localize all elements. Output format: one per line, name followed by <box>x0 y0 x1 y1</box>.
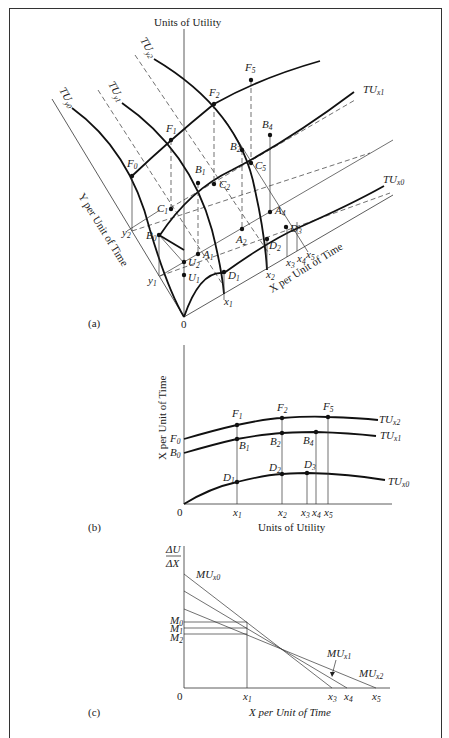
svg-text:B4: B4 <box>262 118 273 132</box>
mu-x0-line <box>184 574 332 688</box>
panel-a: Units of Utility X per Unit of Time Y pe… <box>52 16 404 330</box>
svg-text:F1: F1 <box>231 407 242 421</box>
svg-text:D1: D1 <box>227 269 240 283</box>
svg-text:x1: x1 <box>232 506 242 520</box>
tu-x0-curve <box>184 186 384 317</box>
tu-x0-curve-b <box>184 473 385 504</box>
svg-text:x1: x1 <box>223 295 233 309</box>
svg-text:x5: x5 <box>371 690 381 704</box>
panel-b: X per Unit of Time Units of Utility 0 (b… <box>88 345 409 534</box>
panel-c-x-ticks: x1 x3 x4 x5 <box>242 690 381 704</box>
svg-text:x2: x2 <box>277 506 287 520</box>
svg-text:B4: B4 <box>303 434 314 448</box>
svg-text:x3: x3 <box>285 256 295 270</box>
svg-text:U1: U1 <box>188 271 200 285</box>
svg-text:x1: x1 <box>242 690 252 704</box>
panel-c: ΔU ΔX X per Unit of Time 0 (c) M0 M1 M2 … <box>88 543 390 719</box>
panel-c-curve-labels: MUx0 MUx1 MUx2 <box>195 568 383 681</box>
svg-text:F2: F2 <box>276 401 288 415</box>
svg-text:TUy0: TUy0 <box>56 85 79 111</box>
svg-text:x4: x4 <box>343 690 353 704</box>
svg-text:F0: F0 <box>169 432 181 446</box>
svg-text:MUx2: MUx2 <box>358 667 383 681</box>
panel-b-origin: 0 <box>177 506 183 518</box>
svg-text:x2: x2 <box>265 268 275 282</box>
svg-text:B0: B0 <box>170 446 181 460</box>
panel-b-label: (b) <box>88 521 101 534</box>
arrowhead-icon <box>330 672 335 677</box>
panel-c-ylabel-num: ΔU <box>165 543 181 555</box>
b0-link <box>159 235 184 250</box>
panel-b-xlabel: Units of Utility <box>258 521 326 533</box>
panel-b-x-ticks: x1 x2 x3 x4 x5 <box>232 506 333 520</box>
svg-text:y2: y2 <box>121 226 131 240</box>
svg-text:F5: F5 <box>322 400 334 414</box>
panel-c-ylabel-den: ΔX <box>165 557 180 569</box>
svg-text:U2: U2 <box>188 256 200 270</box>
svg-text:A4: A4 <box>274 204 286 218</box>
panel-a-origin: 0 <box>181 318 187 330</box>
svg-text:TUx2: TUx2 <box>379 413 400 427</box>
svg-text:D3: D3 <box>289 222 302 236</box>
tu-x2-curve <box>132 61 320 176</box>
svg-text:D1: D1 <box>222 471 235 485</box>
panel-c-y-ticks: M0 M1 M2 <box>169 614 183 645</box>
svg-text:TUx1: TUx1 <box>380 429 401 443</box>
svg-text:x4: x4 <box>296 252 306 266</box>
svg-text:D3: D3 <box>303 458 316 472</box>
svg-text:x3: x3 <box>327 690 337 704</box>
svg-text:C5: C5 <box>255 159 266 173</box>
svg-text:F0: F0 <box>126 157 138 171</box>
tu-x2-curve-b <box>184 417 378 439</box>
panel-c-origin: 0 <box>177 690 183 702</box>
svg-text:C2: C2 <box>219 178 230 192</box>
svg-text:A1: A1 <box>202 248 213 262</box>
mu-x1-line <box>184 591 347 688</box>
svg-text:MUx1: MUx1 <box>326 647 351 661</box>
utility-axis-label: Units of Utility <box>154 16 222 28</box>
svg-text:TUy2: TUy2 <box>137 35 160 61</box>
svg-text:B1: B1 <box>239 439 249 453</box>
svg-text:C1: C1 <box>157 202 168 216</box>
svg-text:x4: x4 <box>311 506 321 520</box>
panel-b-ylabel: X per Unit of Time <box>156 376 168 460</box>
svg-text:y1: y1 <box>147 274 157 288</box>
panel-b-drops <box>237 417 328 504</box>
svg-text:B1: B1 <box>195 163 205 177</box>
mu-x2-line <box>184 609 376 688</box>
svg-text:D2: D2 <box>268 461 281 475</box>
svg-text:x5: x5 <box>305 248 315 262</box>
svg-text:F2: F2 <box>208 86 220 100</box>
svg-text:x5: x5 <box>323 506 333 520</box>
panel-b-curve-labels: TUx2 TUx1 TUx0 <box>379 413 409 489</box>
svg-text:B2: B2 <box>270 435 281 449</box>
svg-text:F5: F5 <box>244 61 256 75</box>
svg-text:x3: x3 <box>300 506 310 520</box>
svg-text:F1: F1 <box>165 122 176 136</box>
b0-link2 <box>159 235 184 263</box>
svg-text:MUx0: MUx0 <box>195 568 220 582</box>
svg-text:A2: A2 <box>235 233 247 247</box>
panel-c-label: (c) <box>88 706 101 719</box>
svg-text:TUy1: TUy1 <box>105 79 128 104</box>
svg-text:D2: D2 <box>268 239 281 253</box>
svg-text:TUx0: TUx0 <box>388 475 409 489</box>
panel-c-xlabel: X per Unit of Time <box>248 706 331 718</box>
panel-a-label: (a) <box>88 317 101 330</box>
svg-text:TUx1: TUx1 <box>363 83 384 97</box>
svg-text:TUx0: TUx0 <box>383 173 404 187</box>
svg-text:B0: B0 <box>146 229 157 243</box>
